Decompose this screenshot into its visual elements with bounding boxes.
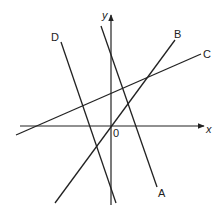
- lines-group: ABCD: [16, 26, 211, 203]
- line-c-label: C: [203, 48, 211, 60]
- line-graph-diagram: x y 0 ABCD: [0, 0, 224, 216]
- line-c: [16, 54, 201, 135]
- y-axis-label: y: [101, 9, 109, 21]
- line-a: [101, 26, 157, 187]
- line-b-label: B: [174, 28, 181, 40]
- x-axis-label: x: [205, 123, 212, 135]
- line-a-label: A: [158, 187, 166, 199]
- origin-label: 0: [113, 127, 119, 139]
- line-d-label: D: [51, 31, 59, 43]
- line-d: [61, 42, 116, 203]
